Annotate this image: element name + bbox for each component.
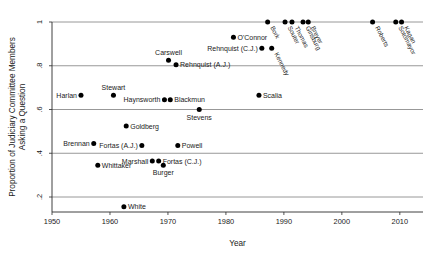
data-point-label: Harlan xyxy=(56,92,77,99)
data-point-label: O'Connor xyxy=(237,34,267,41)
data-point xyxy=(168,97,173,102)
y-axis-title: Asking a Question xyxy=(18,83,27,150)
data-point xyxy=(301,20,306,25)
data-point xyxy=(166,58,171,63)
data-point xyxy=(91,141,96,146)
data-point xyxy=(121,204,126,209)
data-point-label: Fortas (C.J.) xyxy=(163,158,202,166)
y-tick-label: .6 xyxy=(35,106,44,112)
data-point-label: Carswell xyxy=(155,49,182,56)
data-point xyxy=(370,20,375,25)
x-tick-label: 1980 xyxy=(218,217,234,226)
plot-area: .2.4.6.811950196019701980199020002010Yea… xyxy=(0,0,434,262)
data-point xyxy=(306,20,311,25)
data-point-label: Bork xyxy=(269,25,282,41)
data-point-label: Rehnquist (C.J.) xyxy=(207,45,258,53)
data-point-label: Haynsworth xyxy=(123,96,160,104)
data-point xyxy=(139,143,144,148)
x-tick-label: 2010 xyxy=(392,217,408,226)
data-point xyxy=(161,163,166,168)
data-point-label: Kennedy xyxy=(272,51,291,78)
data-point-label: Burger xyxy=(153,169,175,177)
x-tick-label: 1970 xyxy=(160,217,176,226)
y-tick-label: .4 xyxy=(35,150,44,156)
data-point xyxy=(197,107,202,112)
data-point xyxy=(124,123,129,128)
data-point xyxy=(150,158,155,163)
data-point-label: White xyxy=(128,203,146,210)
data-point-label: Roberts xyxy=(374,25,390,48)
y-tick-label: .8 xyxy=(35,63,44,69)
data-point-label: Stevens xyxy=(187,114,213,121)
data-point-label: Brennan xyxy=(63,140,90,147)
data-point-label: Powell xyxy=(182,142,203,149)
data-point-label: Rehnquist (A.J.) xyxy=(180,61,230,69)
data-point xyxy=(95,163,100,168)
data-point xyxy=(289,20,294,25)
data-point xyxy=(259,46,264,51)
data-point xyxy=(269,46,274,51)
data-point xyxy=(111,93,116,98)
x-tick-label: 1950 xyxy=(44,217,60,226)
data-point-label: Fortas (A.J.) xyxy=(99,142,138,150)
data-point-label: Marshall xyxy=(122,158,149,165)
data-point xyxy=(174,62,179,67)
data-point xyxy=(393,20,398,25)
data-point-label: Goldberg xyxy=(130,123,159,131)
data-point-label: Scalia xyxy=(263,92,282,99)
data-point xyxy=(283,20,288,25)
data-point xyxy=(399,20,404,25)
y-tick-label: 1 xyxy=(35,20,44,24)
data-point xyxy=(156,158,161,163)
x-tick-label: 2000 xyxy=(334,217,350,226)
data-point-label: Blackmun xyxy=(174,96,205,103)
x-tick-label: 1960 xyxy=(102,217,118,226)
data-point xyxy=(78,93,83,98)
data-point xyxy=(175,143,180,148)
data-point xyxy=(231,35,236,40)
x-axis-title: Year xyxy=(229,239,246,248)
y-tick-label: .2 xyxy=(35,194,44,200)
data-point xyxy=(256,93,261,98)
data-point xyxy=(265,20,270,25)
data-point xyxy=(162,97,167,102)
y-axis-title: Proportion of Judiciary Committee Member… xyxy=(8,37,17,197)
scatter-plot-chart: .2.4.6.811950196019701980199020002010Yea… xyxy=(0,0,434,262)
x-tick-label: 1990 xyxy=(276,217,292,226)
data-point-label: Stewart xyxy=(102,84,126,91)
